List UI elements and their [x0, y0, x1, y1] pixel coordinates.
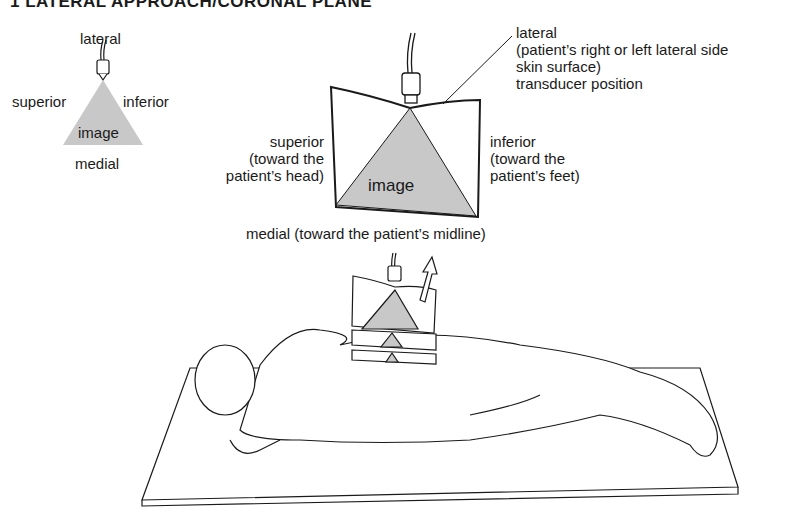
large-label-lateral-line2: (patient’s right or left lateral side	[516, 41, 728, 58]
small-label-image: image	[78, 124, 119, 141]
large-label-lateral-title: lateral	[516, 24, 557, 41]
small-label-inferior: inferior	[123, 93, 169, 110]
diagram-artwork	[0, 0, 789, 518]
large-label-medial: medial (toward the patient’s midline)	[246, 225, 486, 242]
large-label-inferior: inferior	[490, 133, 536, 150]
small-label-lateral: lateral	[80, 30, 121, 47]
small-label-medial: medial	[75, 155, 119, 172]
large-label-lateral-line4: transducer position	[516, 75, 643, 92]
small-label-superior: superior	[12, 93, 66, 110]
large-label-inferior-line2: (toward the	[490, 150, 565, 167]
large-label-inferior-line3: patient’s feet)	[490, 167, 580, 184]
large-label-superior: superior	[212, 133, 324, 150]
large-label-superior-line3: patient’s head)	[200, 167, 324, 184]
large-label-lateral-line3: skin surface)	[516, 58, 601, 75]
leader-line	[443, 36, 512, 104]
large-label-superior-line2: (toward the	[212, 150, 324, 167]
large-transducer-icon	[402, 33, 420, 103]
large-label-image: image	[368, 177, 414, 194]
